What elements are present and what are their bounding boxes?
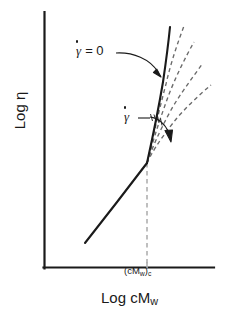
zero-shear-leader-arrowhead (154, 69, 162, 77)
shear-rate-annotation: γ (124, 110, 129, 123)
figure-container: Log η Log cMw (cMw)c γ= 0 γ (0, 0, 225, 317)
tick-label-subscript-c: c (148, 270, 151, 277)
gamma-dot-symbol-zero: γ (76, 44, 81, 57)
zero-shear-leader-arrow (116, 53, 161, 77)
x-axis-title-subscript: w (150, 295, 158, 307)
zero-shear-leader-line (116, 53, 158, 72)
zero-shear-curve-group (85, 27, 170, 243)
gamma-glyph: γ (124, 109, 129, 124)
zero-shear-low-slope-branch (85, 163, 147, 243)
plot-canvas (0, 0, 225, 317)
x-axis-title-text: Log cM (101, 289, 150, 306)
tick-label-prefix: (cM (124, 265, 140, 276)
x-axis-title: Log cMw (101, 290, 158, 307)
shear-rate-curves-group (147, 26, 211, 163)
gamma-dot-symbol: γ (124, 110, 129, 123)
zero-shear-rate-annotation: γ= 0 (76, 44, 104, 57)
shear-rate-curve-2 (147, 42, 194, 163)
gamma-glyph: γ (76, 43, 81, 58)
zero-shear-equals-text: = 0 (85, 43, 103, 58)
axes-group (44, 12, 215, 269)
shear-rate-direction-arrowhead (165, 130, 173, 142)
y-axis-title: Log η (12, 76, 27, 146)
x-axis-tick-label-critical: (cMw)c (124, 266, 151, 277)
